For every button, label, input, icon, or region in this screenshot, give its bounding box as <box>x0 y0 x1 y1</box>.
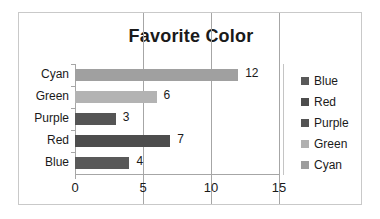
x-axis-tick-label: 15 <box>272 180 286 195</box>
legend-label: Cyan <box>314 158 342 172</box>
bar-row[interactable]: Blue4 <box>75 152 279 174</box>
chart-title: Favorite Color <box>19 26 363 47</box>
bar-value-label: 12 <box>245 66 258 80</box>
legend-item[interactable]: Purple <box>301 112 361 133</box>
x-axis-line <box>75 174 280 175</box>
chart-frame: Favorite Color 051015 Cyan12Green6Purple… <box>18 12 362 205</box>
legend-item[interactable]: Green <box>301 133 361 154</box>
x-axis-tick-label: 10 <box>204 180 218 195</box>
legend-swatch-icon <box>301 98 309 106</box>
legend-label: Blue <box>314 74 338 88</box>
y-axis-category-label: Purple <box>17 111 75 125</box>
x-axis-tick <box>75 175 76 179</box>
bar[interactable] <box>75 69 238 81</box>
legend-swatch-icon <box>301 77 309 85</box>
x-axis-tick-label: 5 <box>139 180 146 195</box>
legend-swatch-icon <box>301 140 309 148</box>
legend-label: Green <box>314 137 347 151</box>
legend-item[interactable]: Red <box>301 91 361 112</box>
y-axis-category-label: Green <box>17 89 75 103</box>
legend-label: Purple <box>314 116 349 130</box>
x-axis-tick <box>211 175 212 179</box>
bar-row[interactable]: Purple3 <box>75 108 279 130</box>
bar[interactable] <box>75 113 116 125</box>
legend-item[interactable]: Cyan <box>301 154 361 175</box>
chart-legend: BlueRedPurpleGreenCyan <box>301 70 361 175</box>
x-axis-tick <box>279 175 280 179</box>
bar-row[interactable]: Red7 <box>75 130 279 152</box>
bar-value-label: 4 <box>136 154 143 168</box>
legend-swatch-icon <box>301 161 309 169</box>
bar-value-label: 7 <box>177 132 184 146</box>
plot-area: Cyan12Green6Purple3Red7Blue4 <box>75 64 279 174</box>
legend-item[interactable]: Blue <box>301 70 361 91</box>
bar-value-label: 3 <box>123 110 130 124</box>
x-axis-tick <box>143 175 144 179</box>
bar-row[interactable]: Green6 <box>75 86 279 108</box>
bar[interactable] <box>75 157 129 169</box>
legend-swatch-icon <box>301 119 309 127</box>
bar-value-label: 6 <box>164 88 171 102</box>
y-axis-category-label: Red <box>17 133 75 147</box>
legend-divider <box>283 64 284 175</box>
x-axis-tick-label: 0 <box>71 180 78 195</box>
bar[interactable] <box>75 91 157 103</box>
bar-row[interactable]: Cyan12 <box>75 64 279 86</box>
y-axis-category-label: Blue <box>17 155 75 169</box>
bar[interactable] <box>75 135 170 147</box>
legend-label: Red <box>314 95 336 109</box>
y-axis-category-label: Cyan <box>17 67 75 81</box>
